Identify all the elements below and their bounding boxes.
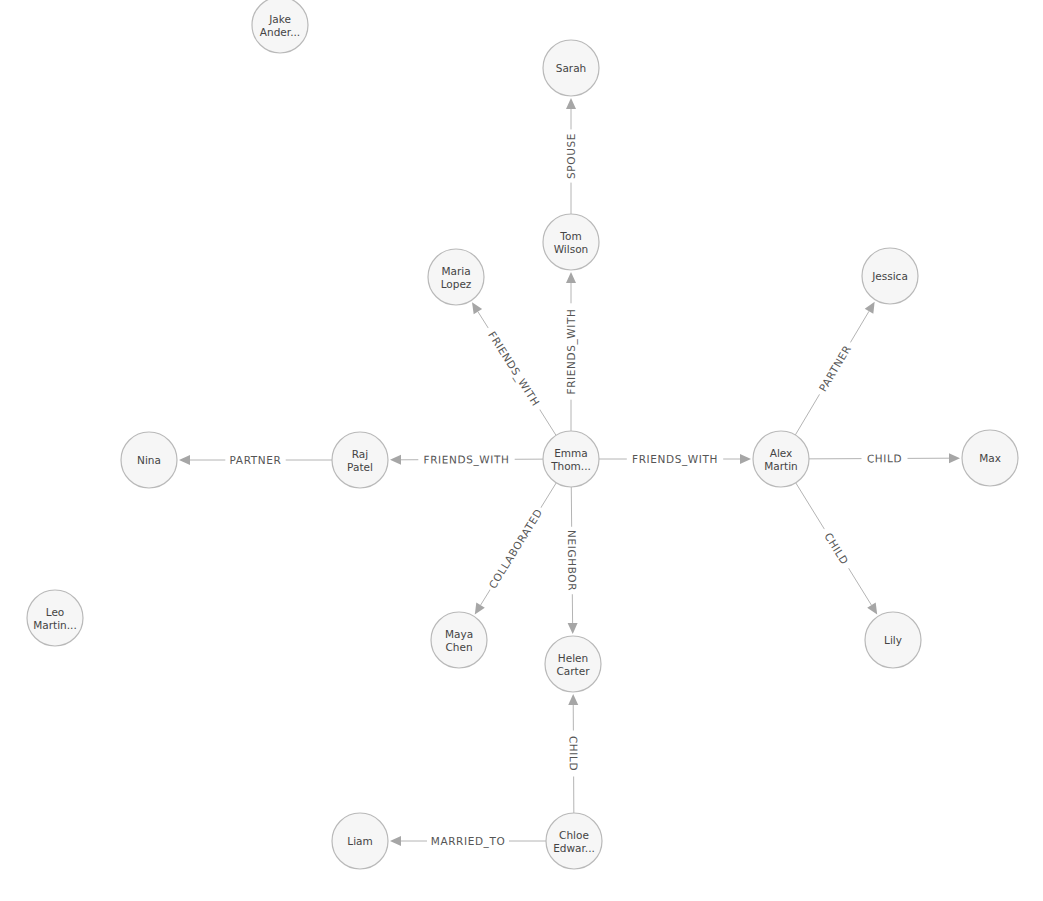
edge-label: CHILD bbox=[867, 452, 902, 464]
node-circle[interactable] bbox=[252, 0, 308, 53]
edge-label: FRIENDS_WITH bbox=[424, 453, 510, 466]
node-leo[interactable]: LeoMartin... bbox=[27, 590, 83, 646]
node-jake[interactable]: JakeAnder... bbox=[252, 0, 308, 53]
edge-emma-raj[interactable]: FRIENDS_WITH bbox=[390, 452, 543, 466]
edge-emma-alex[interactable]: FRIENDS_WITH bbox=[599, 452, 751, 466]
edge-emma-maya[interactable]: COLLABORATED bbox=[475, 483, 556, 615]
arrowhead-icon bbox=[475, 603, 485, 615]
node-lily[interactable]: Lily bbox=[865, 612, 921, 668]
arrowhead-icon bbox=[865, 302, 875, 314]
arrowhead-icon bbox=[867, 603, 877, 615]
edge-label: FRIENDS_WITH bbox=[632, 453, 718, 466]
arrowhead-icon bbox=[390, 836, 401, 846]
node-circle[interactable] bbox=[545, 636, 601, 692]
node-circle[interactable] bbox=[862, 248, 918, 304]
edge-alex-jessica[interactable]: PARTNER bbox=[795, 302, 874, 435]
node-liam[interactable]: Liam bbox=[332, 813, 388, 869]
node-circle[interactable] bbox=[121, 432, 177, 488]
node-alex[interactable]: AlexMartin bbox=[753, 431, 809, 487]
arrowhead-icon bbox=[568, 694, 578, 705]
node-circle[interactable] bbox=[543, 214, 599, 270]
edge-raj-nina[interactable]: PARTNER bbox=[179, 453, 332, 467]
node-chloe[interactable]: ChloeEdwar... bbox=[546, 813, 602, 869]
node-circle[interactable] bbox=[546, 813, 602, 869]
edge-emma-tom[interactable]: FRIENDS_WITH bbox=[564, 272, 578, 431]
arrowhead-icon bbox=[390, 455, 401, 465]
edge-label: NEIGHBOR bbox=[566, 530, 579, 591]
edge-alex-lily[interactable]: CHILD bbox=[796, 483, 877, 615]
edge-label: COLLABORATED bbox=[486, 506, 544, 590]
node-circle[interactable] bbox=[962, 430, 1018, 486]
edge-label: PARTNER bbox=[816, 343, 853, 394]
node-circle[interactable] bbox=[753, 431, 809, 487]
edge-alex-max[interactable]: CHILD bbox=[809, 451, 960, 465]
edge-chloe-liam[interactable]: MARRIED_TO bbox=[390, 834, 546, 848]
node-tom[interactable]: TomWilson bbox=[543, 214, 599, 270]
node-circle[interactable] bbox=[865, 612, 921, 668]
node-raj[interactable]: RajPatel bbox=[332, 432, 388, 488]
node-max[interactable]: Max bbox=[962, 430, 1018, 486]
edge-emma-helen[interactable]: NEIGHBOR bbox=[565, 487, 580, 634]
nodes-layer: EmmaThom...SarahTomWilsonMariaLopezJakeA… bbox=[27, 0, 1018, 869]
node-maya[interactable]: MayaChen bbox=[431, 612, 487, 668]
node-nina[interactable]: Nina bbox=[121, 432, 177, 488]
node-circle[interactable] bbox=[332, 813, 388, 869]
node-helen[interactable]: HelenCarter bbox=[545, 636, 601, 692]
node-circle[interactable] bbox=[543, 431, 599, 487]
arrowhead-icon bbox=[949, 453, 960, 463]
node-maria[interactable]: MariaLopez bbox=[428, 249, 484, 305]
node-jessica[interactable]: Jessica bbox=[862, 248, 918, 304]
node-circle[interactable] bbox=[543, 40, 599, 96]
node-circle[interactable] bbox=[27, 590, 83, 646]
edge-label: CHILD bbox=[568, 736, 580, 771]
arrowhead-icon bbox=[566, 98, 576, 109]
arrowhead-icon bbox=[472, 302, 482, 314]
node-sarah[interactable]: Sarah bbox=[543, 40, 599, 96]
edge-label: FRIENDS_WITH bbox=[565, 309, 578, 395]
edge-label: MARRIED_TO bbox=[431, 835, 506, 848]
graph-canvas[interactable]: SPOUSEFRIENDS_WITHFRIENDS_WITHFRIENDS_WI… bbox=[0, 0, 1043, 901]
node-emma[interactable]: EmmaThom... bbox=[543, 431, 599, 487]
node-circle[interactable] bbox=[428, 249, 484, 305]
arrowhead-icon bbox=[740, 454, 751, 464]
edge-emma-maria[interactable]: FRIENDS_WITH bbox=[472, 302, 556, 435]
edge-tom-sarah[interactable]: SPOUSE bbox=[564, 98, 578, 214]
edge-label: PARTNER bbox=[230, 454, 282, 466]
arrowhead-icon bbox=[566, 272, 576, 283]
node-circle[interactable] bbox=[431, 612, 487, 668]
node-circle[interactable] bbox=[332, 432, 388, 488]
edge-chloe-helen[interactable]: CHILD bbox=[566, 694, 580, 813]
arrowhead-icon bbox=[568, 623, 578, 634]
edge-label: SPOUSE bbox=[565, 133, 577, 179]
edge-label: FRIENDS_WITH bbox=[485, 329, 542, 409]
arrowhead-icon bbox=[179, 455, 190, 465]
